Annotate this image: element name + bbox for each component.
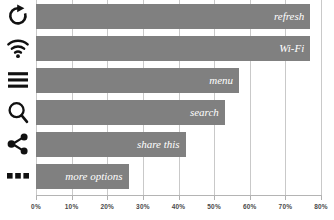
bar-wifi: Wi-Fi <box>36 36 310 61</box>
bar-label-share-this: share this <box>137 139 186 150</box>
x-tick-label-20: 20% <box>92 203 122 210</box>
x-tick-mark-40 <box>179 196 180 200</box>
search-icon <box>7 101 29 124</box>
bar-label-menu: menu <box>209 75 239 86</box>
category-icon-cell-more-options <box>0 160 36 192</box>
category-icon-cell-share <box>0 128 36 160</box>
x-tick-label-10: 10% <box>57 203 87 210</box>
x-tick-label-60: 60% <box>235 203 265 210</box>
refresh-icon <box>6 4 30 28</box>
x-tick-mark-80 <box>321 196 322 200</box>
x-tick-mark-0 <box>36 196 37 200</box>
category-icon-cell-search <box>0 96 36 128</box>
bar-label-wifi: Wi-Fi <box>279 43 310 54</box>
bar-label-more-options: more options <box>65 171 128 182</box>
x-tick-mark-60 <box>250 196 251 200</box>
gridline-40 <box>179 0 180 196</box>
x-tick-label-0: 0% <box>21 203 51 210</box>
icon-recognition-bar-chart: refresh Wi-Fi menu search share this mor… <box>0 0 334 220</box>
x-tick-mark-20 <box>107 196 108 200</box>
hamburger-menu-icon <box>7 71 29 89</box>
gridline-70 <box>285 0 286 196</box>
bar-share-this: share this <box>36 132 186 157</box>
gridline-30 <box>143 0 144 196</box>
bar-more-options: more options <box>36 164 129 189</box>
gridline-60 <box>250 0 251 196</box>
category-icon-cell-wifi <box>0 32 36 64</box>
gridline-80 <box>321 0 322 196</box>
category-icon-cell-menu <box>0 64 36 96</box>
bar-refresh: refresh <box>36 4 310 29</box>
more-options-icon <box>6 172 30 180</box>
x-tick-label-40: 40% <box>164 203 194 210</box>
share-icon <box>7 133 29 155</box>
x-tick-mark-10 <box>72 196 73 200</box>
gridline-50 <box>214 0 215 196</box>
x-tick-mark-30 <box>143 196 144 200</box>
x-tick-mark-50 <box>214 196 215 200</box>
x-tick-label-70: 70% <box>270 203 300 210</box>
bar-search: search <box>36 100 225 125</box>
bar-label-search: search <box>190 107 225 118</box>
x-tick-label-50: 50% <box>199 203 229 210</box>
x-tick-label-30: 30% <box>128 203 158 210</box>
category-icon-cell-refresh <box>0 0 36 32</box>
x-tick-label-80: 80% <box>306 203 334 210</box>
x-tick-mark-70 <box>285 196 286 200</box>
bar-label-refresh: refresh <box>274 11 310 22</box>
bar-menu: menu <box>36 68 239 93</box>
category-icon-axis <box>0 0 36 196</box>
plot-area: refresh Wi-Fi menu search share this mor… <box>36 0 321 196</box>
wifi-icon <box>6 37 30 59</box>
